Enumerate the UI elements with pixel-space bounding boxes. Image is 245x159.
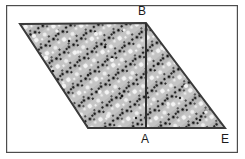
vertex-label-a: A — [141, 133, 149, 145]
vertex-label-b: B — [138, 5, 146, 17]
vertex-label-e: E — [221, 133, 229, 145]
figure-canvas — [0, 0, 245, 159]
geometry-figure: B A E — [0, 0, 245, 159]
parallelogram-fill — [20, 23, 225, 128]
